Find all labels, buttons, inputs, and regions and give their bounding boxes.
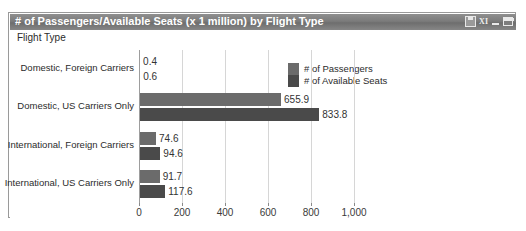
tick-label: 400 xyxy=(217,207,234,218)
bar-value-label: 0.4 xyxy=(143,55,157,68)
tick-mark xyxy=(311,203,312,206)
bar-row: International, Foreign Carriers74.694.6 xyxy=(139,127,354,165)
bar-value-label: 94.6 xyxy=(163,147,182,160)
bar-available-seats[interactable] xyxy=(140,147,160,160)
bar-available-seats[interactable] xyxy=(140,185,165,198)
plot-area: 02004006008001,000 Domestic, Foreign Car… xyxy=(139,50,354,203)
tick-label: 600 xyxy=(260,207,277,218)
tick-label: 1,000 xyxy=(341,207,366,218)
titlebar-button-group: XI xyxy=(465,16,513,27)
tick-mark xyxy=(182,203,183,206)
excel-export-icon[interactable]: XI xyxy=(479,17,488,26)
category-label: International, US Carriers Only xyxy=(5,177,134,188)
minimize-icon[interactable] xyxy=(491,17,500,26)
panel-titlebar: # of Passengers/Available Seats (x 1 mil… xyxy=(10,14,516,30)
tick-label: 800 xyxy=(303,207,320,218)
category-label: Domestic, US Carriers Only xyxy=(17,100,134,111)
maximize-icon[interactable] xyxy=(503,17,513,26)
tick-mark xyxy=(139,203,140,206)
bar-row: International, US Carriers Only91.7117.6 xyxy=(139,165,354,203)
tick-mark xyxy=(268,203,269,206)
bar-row: Domestic, Foreign Carriers0.40.6 xyxy=(139,50,354,88)
category-label: Domestic, Foreign Carriers xyxy=(21,62,135,73)
bar-value-label: 655.9 xyxy=(284,93,309,106)
bar-value-label: 833.8 xyxy=(322,108,347,121)
chart-panel: # of Passengers/Available Seats (x 1 mil… xyxy=(8,12,516,218)
bar-passengers[interactable] xyxy=(140,170,160,183)
bar-value-label: 74.6 xyxy=(159,132,178,145)
bar-row: Domestic, US Carriers Only655.9833.8 xyxy=(139,88,354,126)
bar-available-seats[interactable] xyxy=(140,108,319,121)
tick-label: 200 xyxy=(174,207,191,218)
bar-value-label: 0.6 xyxy=(143,70,157,83)
bar-value-label: 91.7 xyxy=(163,170,182,183)
category-label: International, Foreign Carriers xyxy=(8,139,134,150)
chart-body: Flight Type # of Passengers # of Availab… xyxy=(10,30,516,218)
gridline xyxy=(354,50,355,203)
category-axis-title: Flight Type xyxy=(17,32,66,43)
bar-passengers[interactable] xyxy=(140,93,281,106)
tick-mark xyxy=(225,203,226,206)
panel-title: # of Passengers/Available Seats (x 1 mil… xyxy=(15,15,324,27)
bar-value-label: 117.6 xyxy=(168,185,192,198)
bar-passengers[interactable] xyxy=(140,132,156,145)
save-icon[interactable] xyxy=(465,16,476,27)
tick-label: 0 xyxy=(136,207,142,218)
tick-mark xyxy=(354,203,355,206)
